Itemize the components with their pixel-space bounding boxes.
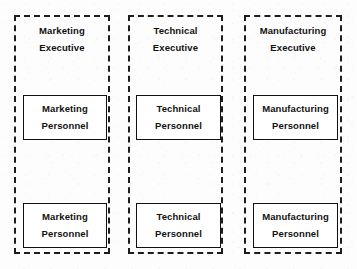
personnel-box-line-2: Personnel	[42, 226, 89, 243]
personnel-box-line-1: Manufacturing	[262, 101, 329, 118]
department-header-marketing: Marketing Executive	[16, 23, 108, 56]
department-group-technical: Technical Executive Technical Personnel …	[128, 15, 223, 254]
diagram-canvas: Marketing Executive Marketing Personnel …	[0, 0, 357, 269]
department-header-line-2: Executive	[16, 40, 108, 57]
personnel-box-line-1: Marketing	[42, 101, 88, 118]
personnel-box-line-1: Marketing	[42, 209, 88, 226]
personnel-box-line-2: Personnel	[155, 118, 202, 135]
personnel-box-line-2: Personnel	[42, 118, 89, 135]
department-group-marketing: Marketing Executive Marketing Personnel …	[14, 15, 110, 254]
personnel-box-marketing-1: Marketing Personnel	[23, 95, 107, 140]
department-header-line-2: Executive	[130, 40, 221, 57]
department-header-line-2: Executive	[246, 40, 340, 57]
department-header-line-1: Technical	[130, 23, 221, 40]
personnel-box-line-1: Technical	[156, 209, 200, 226]
personnel-box-manufacturing-1: Manufacturing Personnel	[253, 95, 338, 140]
personnel-box-technical-1: Technical Personnel	[136, 95, 221, 140]
department-group-manufacturing: Manufacturing Executive Manufacturing Pe…	[244, 15, 342, 254]
personnel-box-line-2: Personnel	[272, 118, 319, 135]
department-header-line-1: Marketing	[16, 23, 108, 40]
personnel-box-manufacturing-2: Manufacturing Personnel	[253, 203, 338, 248]
department-header-manufacturing: Manufacturing Executive	[246, 23, 340, 56]
personnel-box-marketing-2: Marketing Personnel	[23, 203, 107, 248]
personnel-box-technical-2: Technical Personnel	[136, 203, 221, 248]
personnel-box-line-2: Personnel	[272, 226, 319, 243]
department-header-line-1: Manufacturing	[246, 23, 340, 40]
department-header-technical: Technical Executive	[130, 23, 221, 56]
personnel-box-line-1: Manufacturing	[262, 209, 329, 226]
personnel-box-line-2: Personnel	[155, 226, 202, 243]
personnel-box-line-1: Technical	[156, 101, 200, 118]
